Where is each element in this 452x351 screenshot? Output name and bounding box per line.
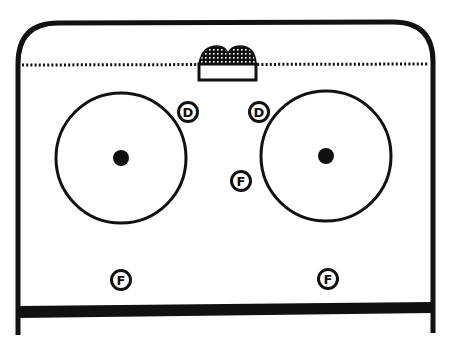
player-marker-d-left: D <box>179 103 198 122</box>
player-label: F <box>237 174 246 189</box>
player-marker-f-bottom-left: F <box>112 271 131 290</box>
player-label: F <box>324 272 333 287</box>
faceoff-circle-right <box>261 91 391 221</box>
player-marker-d-right: D <box>250 103 269 122</box>
player-label: D <box>254 105 265 120</box>
player-marker-f-bottom-right: F <box>319 270 338 289</box>
faceoff-dot <box>113 150 129 166</box>
faceoff-circle-left <box>56 93 186 223</box>
blue-line <box>18 302 433 318</box>
faceoff-dot <box>318 148 334 164</box>
goal-net <box>199 46 256 80</box>
player-marker-f-center: F <box>232 172 251 191</box>
rink-diagram: DDFFF <box>0 0 452 351</box>
player-label: F <box>117 273 126 288</box>
player-label: D <box>183 105 194 120</box>
